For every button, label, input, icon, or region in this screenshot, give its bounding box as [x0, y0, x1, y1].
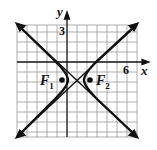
- focus-f1-dot: [59, 77, 65, 83]
- focus-f2-label: F2: [96, 74, 110, 91]
- focus-f2-dot: [87, 77, 93, 83]
- hyperbola-graph: [0, 0, 157, 150]
- x-tick-label: 6: [123, 64, 129, 76]
- y-tick-label: 3: [59, 25, 65, 37]
- x-axis-label: x: [141, 64, 148, 77]
- y-axis-arrow-icon: [65, 12, 70, 19]
- focus-f1-label: F1: [40, 74, 54, 91]
- y-axis-label: y: [57, 5, 63, 18]
